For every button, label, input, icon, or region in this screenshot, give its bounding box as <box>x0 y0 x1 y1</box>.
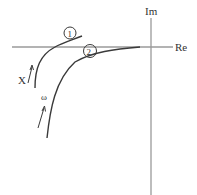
omega-arrow <box>38 108 44 128</box>
omega-label: ω <box>41 92 47 102</box>
curve-2 <box>47 47 140 138</box>
curve-2-label: 2 <box>87 47 92 57</box>
nyquist-diagram: Re Im 1 2 X ω <box>0 0 197 195</box>
real-axis-label: Re <box>175 41 187 53</box>
curve-1-label: 1 <box>68 29 73 39</box>
x-label: X <box>18 74 26 86</box>
imaginary-axis-label: Im <box>145 5 158 17</box>
